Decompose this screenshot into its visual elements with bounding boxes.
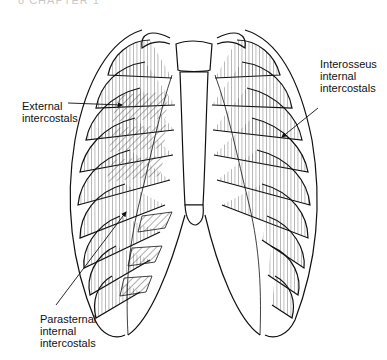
label-interosseus-internal-intercostals: Interosseus internal intercostals [320, 58, 377, 94]
rib-cage-diagram [0, 0, 387, 360]
label-parasternal-internal-intercostals: Parasternal internal intercostals [40, 313, 96, 349]
label-external-intercostals: External intercostals [22, 100, 78, 124]
left-rib-cage [70, 30, 185, 337]
right-rib-cage [205, 30, 317, 337]
sternum [176, 41, 212, 225]
